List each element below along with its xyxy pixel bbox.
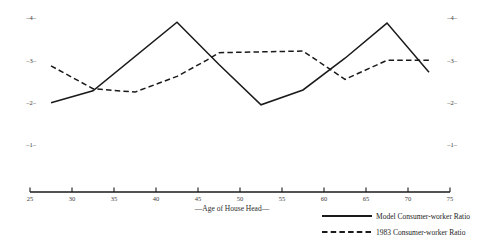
series-group bbox=[51, 22, 429, 105]
x-tick-label-75: 75 bbox=[447, 195, 454, 202]
chart-container: –1––2––3––4– –1––2––3––4– 25303540455055… bbox=[0, 0, 481, 243]
y-axis-right: –1––2––3––4– bbox=[446, 14, 458, 148]
x-tick-label-30: 30 bbox=[69, 195, 76, 202]
x-tick-label-65: 65 bbox=[363, 195, 370, 202]
x-axis-ticks: 2530354045505560657075 bbox=[27, 188, 454, 202]
y-axis-left: –1––2––3––4– bbox=[25, 14, 37, 148]
x-tick-label-35: 35 bbox=[111, 195, 118, 202]
x-axis: 2530354045505560657075 bbox=[27, 188, 454, 202]
y-tick-label-right-3: –3– bbox=[446, 57, 458, 64]
y-tick-label-right-4: –4– bbox=[446, 14, 458, 21]
line-chart: –1––2––3––4– –1––2––3––4– 25303540455055… bbox=[0, 0, 481, 243]
y-tick-label-left-3: –3– bbox=[25, 57, 37, 64]
legend-label-1983: 1983 Consumer-worker Ratio bbox=[376, 228, 466, 237]
y-tick-label-right-1: –1– bbox=[446, 141, 458, 148]
y-tick-label-left-1: –1– bbox=[25, 141, 37, 148]
x-tick-label-60: 60 bbox=[321, 195, 328, 202]
x-tick-label-50: 50 bbox=[237, 195, 244, 202]
x-tick-label-70: 70 bbox=[405, 195, 412, 202]
x-tick-label-40: 40 bbox=[153, 195, 160, 202]
y-tick-label-left-4: –4– bbox=[25, 14, 37, 21]
series-line-model bbox=[51, 22, 429, 105]
y-tick-label-right-2: –2– bbox=[446, 99, 458, 106]
legend-label-model: Model Consumer-worker Ratio bbox=[376, 212, 470, 221]
x-tick-label-55: 55 bbox=[279, 195, 286, 202]
x-tick-label-45: 45 bbox=[195, 195, 202, 202]
y-tick-label-left-2: –2– bbox=[25, 99, 37, 106]
series-line-1983 bbox=[51, 51, 429, 92]
legend: Model Consumer-worker Ratio 1983 Consume… bbox=[322, 212, 470, 237]
x-axis-title: —Age of House Head— bbox=[194, 204, 270, 213]
x-tick-label-25: 25 bbox=[27, 195, 34, 202]
